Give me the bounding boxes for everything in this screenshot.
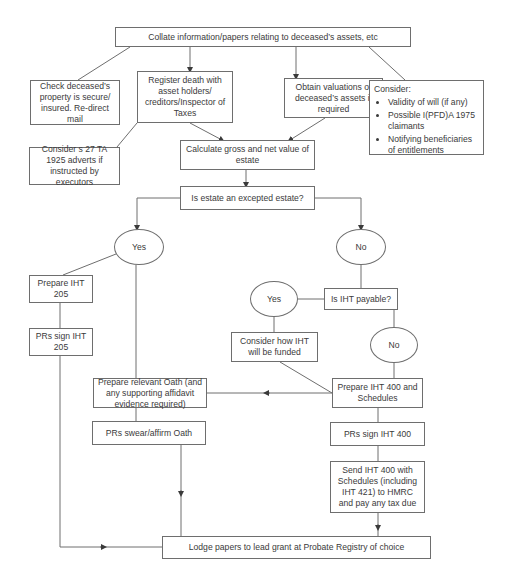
yes-excepted-ellipse: Yes <box>114 229 164 265</box>
prepare-iht205-box: Prepare IHT 205 <box>29 275 93 303</box>
yes-payable-ellipse: Yes <box>250 281 298 317</box>
collate-box: Collate information/papers relating to d… <box>115 27 411 47</box>
prepare-iht400-box: Prepare IHT 400 and Schedules <box>332 378 423 408</box>
calculate-value-box: Calculate gross and net value of estate <box>180 140 315 170</box>
consider-funding-text: Consider how IHT will be funded <box>235 336 314 358</box>
prepare-iht400-text: Prepare IHT 400 and Schedules <box>336 382 419 404</box>
consider-item: Notifying beneficiaries of entitlements <box>388 134 479 156</box>
register-death-text: Register death with asset holders/ credi… <box>141 75 229 119</box>
excepted-estate-text: Is estate an excepted estate? <box>191 193 303 204</box>
consider-list: Validity of will (if any) Possible I(PFD… <box>374 97 479 158</box>
consider-s27-text: Consider s 27 TA 1925 adverts if instruc… <box>33 144 116 188</box>
register-death-box: Register death with asset holders/ credi… <box>137 71 233 123</box>
consider-item: Validity of will (if any) <box>388 97 479 108</box>
yes-payable-text: Yes <box>267 294 281 304</box>
prs-swear-oath-text: PRs swear/affirm Oath <box>106 428 192 439</box>
iht-payable-box: Is IHT payable? <box>324 288 398 310</box>
calculate-value-text: Calculate gross and net value of estate <box>184 144 311 166</box>
consider-title: Consider: <box>374 84 411 95</box>
probate-flowchart: Collate information/papers relating to d… <box>0 0 509 587</box>
prs-sign-iht400-text: PRs sign IHT 400 <box>344 429 411 440</box>
prs-swear-oath-box: PRs swear/affirm Oath <box>92 421 206 445</box>
no-payable-ellipse: No <box>370 327 418 363</box>
prs-sign-iht400-box: PRs sign IHT 400 <box>330 422 425 446</box>
obtain-valuations-text: Obtain valuations of deceased’s assets i… <box>288 82 379 115</box>
no-excepted-text: No <box>356 242 367 252</box>
lodge-papers-text: Lodge papers to lead grant at Probate Re… <box>189 542 404 553</box>
send-iht400-text: Send IHT 400 with Schedules (including I… <box>334 465 421 509</box>
consider-s27-box: Consider s 27 TA 1925 adverts if instruc… <box>29 147 120 185</box>
send-iht400-box: Send IHT 400 with Schedules (including I… <box>330 461 425 513</box>
prs-sign-iht205-text: PRs sign IHT 205 <box>33 331 89 353</box>
iht-payable-text: Is IHT payable? <box>331 294 391 305</box>
consider-funding-box: Consider how IHT will be funded <box>231 332 318 362</box>
check-property-box: Check deceased’s property is secure/ ins… <box>30 80 120 125</box>
no-excepted-ellipse: No <box>336 229 386 265</box>
excepted-estate-box: Is estate an excepted estate? <box>180 186 315 210</box>
lodge-papers-box: Lodge papers to lead grant at Probate Re… <box>162 536 431 559</box>
prepare-oath-box: Prepare relevant Oath (and any supportin… <box>93 378 207 408</box>
prepare-iht205-text: Prepare IHT 205 <box>33 278 89 300</box>
consider-item: Possible I(PFD)A 1975 claimants <box>388 110 479 132</box>
consider-box: Consider: Validity of will (if any) Poss… <box>369 80 484 155</box>
yes-excepted-text: Yes <box>132 242 146 252</box>
prs-sign-iht205-box: PRs sign IHT 205 <box>29 328 93 356</box>
check-property-text: Check deceased’s property is secure/ ins… <box>34 81 116 125</box>
prepare-oath-text: Prepare relevant Oath (and any supportin… <box>97 377 203 410</box>
collate-text: Collate information/papers relating to d… <box>148 32 378 43</box>
no-payable-text: No <box>389 340 400 350</box>
